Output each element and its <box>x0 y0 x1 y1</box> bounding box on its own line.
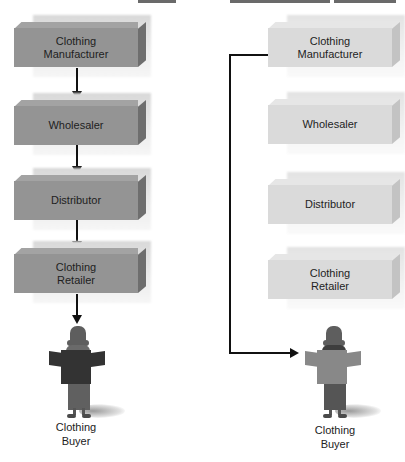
right-box-manufacturer: Clothing Manufacturer <box>268 22 400 69</box>
left-box-distributor: Distributor <box>14 175 146 222</box>
box-label: Wholesaler <box>302 118 357 131</box>
buyer-label-right: Clothing Buyer <box>295 423 375 451</box>
cropped-heading <box>138 0 398 4</box>
buyer-figure-left <box>49 326 109 422</box>
left-box-manufacturer: Clothing Manufacturer <box>14 22 146 69</box>
box-label: Clothing <box>44 35 109 48</box>
arrow-down-icon <box>72 315 82 324</box>
box-label: Distributor <box>305 198 355 211</box>
arrow-line <box>76 294 78 316</box>
right-box-wholesaler: Wholesaler <box>268 99 400 146</box>
arrow-right-icon <box>290 348 299 358</box>
left-box-retailer: Clothing Retailer <box>14 248 146 295</box>
right-box-retailer: Clothing Retailer <box>268 254 400 301</box>
box-label: Clothing <box>56 261 96 274</box>
arrow-line <box>76 68 78 92</box>
arrow-line <box>76 145 78 167</box>
box-label: Wholesaler <box>48 119 103 132</box>
shirt-icon <box>305 350 361 384</box>
box-label: Retailer <box>56 274 96 287</box>
box-label: Manufacturer <box>44 48 109 61</box>
arrow-line <box>76 220 78 242</box>
box-label: Manufacturer <box>298 48 363 61</box>
buyer-figure-right <box>305 326 365 422</box>
box-label: Retailer <box>310 280 350 293</box>
shirt-icon <box>49 350 105 384</box>
bypass-line-top <box>229 54 268 56</box>
left-box-wholesaler: Wholesaler <box>14 100 146 147</box>
box-label: Distributor <box>51 194 101 207</box>
right-box-distributor: Distributor <box>268 179 400 226</box>
box-label: Clothing <box>298 35 363 48</box>
buyer-label-left: Clothing Buyer <box>36 420 116 448</box>
bypass-line-vertical <box>229 54 231 353</box>
box-label: Clothing <box>310 267 350 280</box>
bypass-line-bottom <box>229 352 291 354</box>
